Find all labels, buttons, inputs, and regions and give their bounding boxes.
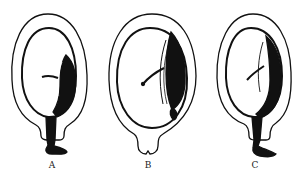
panel-c-drawing <box>217 14 291 157</box>
diagram-canvas <box>0 0 305 181</box>
panel-label-c: C <box>245 160 265 170</box>
panel-label-b: B <box>138 160 158 170</box>
panel-b-drawing <box>109 14 196 154</box>
panel-label-a: A <box>42 160 62 170</box>
panel-a-drawing <box>12 14 87 154</box>
